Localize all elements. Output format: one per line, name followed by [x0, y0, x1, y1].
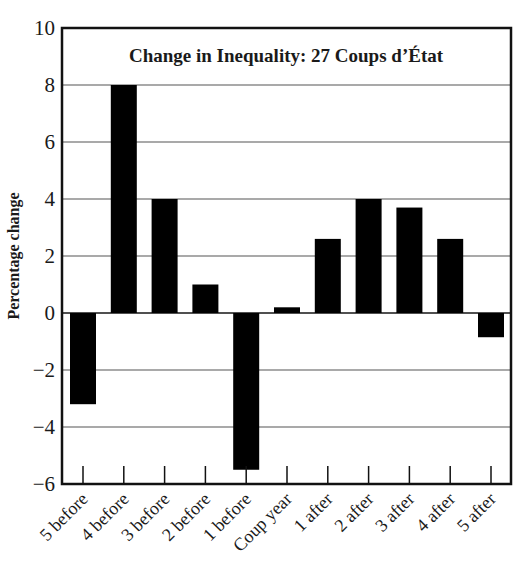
x-category-label: 4 after — [412, 489, 459, 536]
x-category-label: 2 after — [330, 489, 377, 536]
bar — [111, 85, 137, 313]
y-tick-label: 10 — [34, 16, 55, 40]
y-tick-label: −6 — [33, 472, 55, 496]
bar — [356, 199, 382, 313]
x-category-labels: 5 before4 before3 before2 before1 before… — [36, 489, 500, 556]
y-tick-label: 2 — [45, 244, 56, 268]
y-tick-label: 8 — [45, 73, 56, 97]
bar — [233, 313, 259, 470]
bar — [192, 285, 218, 314]
bar — [274, 307, 300, 313]
bar — [152, 199, 178, 313]
y-tick-label: −4 — [33, 415, 56, 439]
y-tick-label: 0 — [45, 301, 56, 325]
x-category-label: 5 after — [453, 489, 500, 536]
y-tick-label: −2 — [33, 358, 55, 382]
chart-title: Change in Inequality: 27 Coups d’État — [129, 45, 444, 66]
bar-chart: −6−4−20246810 5 before4 before3 before2 … — [0, 0, 517, 568]
bar — [478, 313, 504, 337]
bar — [396, 208, 422, 313]
bar — [315, 239, 341, 313]
x-ticks — [83, 466, 491, 484]
y-tick-label: 6 — [45, 130, 56, 154]
bars — [70, 85, 504, 470]
y-axis-label: Percentage change — [5, 192, 23, 319]
y-tick-label: 4 — [45, 187, 56, 211]
x-category-label: 3 after — [371, 489, 418, 536]
x-category-label: 1 after — [290, 489, 337, 536]
bar — [437, 239, 463, 313]
bar — [70, 313, 96, 404]
y-tick-labels: −6−4−20246810 — [33, 16, 56, 496]
